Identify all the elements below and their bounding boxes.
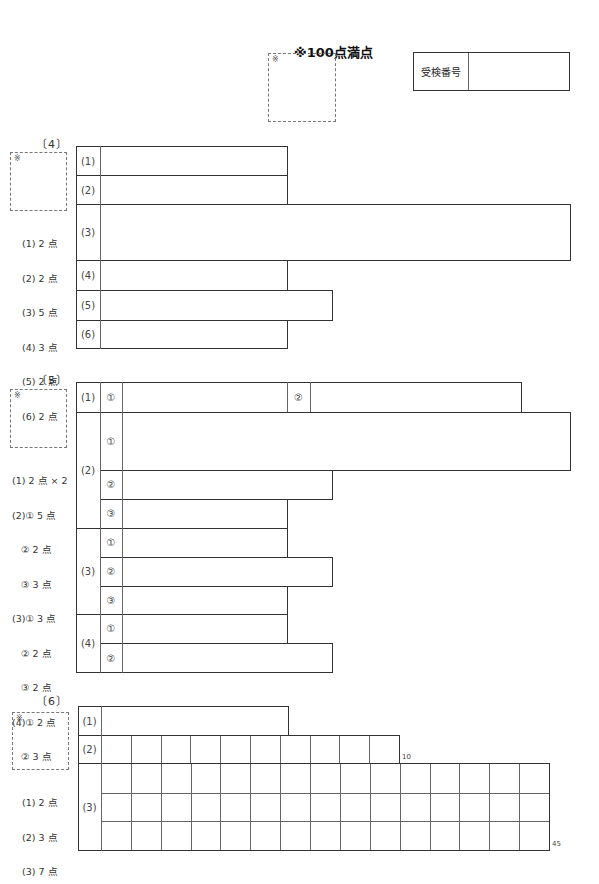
s5-q1-label: (1): [76, 382, 100, 413]
s6-q3-label: (3): [78, 763, 101, 851]
char-cell[interactable]: [191, 764, 221, 793]
char-cell[interactable]: [519, 764, 549, 793]
s5-q2-label: (2): [76, 412, 100, 528]
s5-q4-sub1-answer[interactable]: [123, 615, 286, 642]
s5-q3-sub2-answer[interactable]: [123, 558, 331, 585]
section-4-label: 〔4〕: [36, 135, 68, 151]
char-cell[interactable]: [191, 821, 221, 850]
points-line: (1) 2 点 × 2: [12, 475, 68, 487]
char-cell[interactable]: [101, 764, 131, 793]
char-cell[interactable]: [310, 764, 340, 793]
section-6-score-box[interactable]: ※: [12, 712, 69, 770]
char-cell[interactable]: [220, 764, 250, 793]
char-cell[interactable]: [430, 821, 460, 850]
s5-q4-sub2-answer[interactable]: [123, 644, 331, 672]
char-cell[interactable]: [400, 764, 430, 793]
char-cell[interactable]: [310, 821, 340, 850]
points-line: ③ 3 点: [12, 579, 68, 591]
char-cell[interactable]: [161, 764, 191, 793]
s4-q4-answer[interactable]: [101, 261, 287, 290]
char-cell[interactable]: [280, 736, 310, 763]
char-cell[interactable]: [131, 793, 161, 822]
s5-q2-sub1-answer[interactable]: [123, 413, 569, 469]
char-cell[interactable]: [489, 764, 519, 793]
s5-q2-sub3-answer[interactable]: [123, 500, 286, 527]
char-cell[interactable]: [370, 793, 400, 822]
char-cell[interactable]: [340, 764, 370, 793]
char-cell[interactable]: [220, 736, 250, 763]
char-cell[interactable]: [430, 764, 460, 793]
char-cell[interactable]: [369, 736, 399, 763]
s5-q3-sub2-label: ②: [100, 557, 122, 586]
section-6-points: (1) 2 点 (2) 3 点 (3) 7 点: [22, 774, 58, 884]
char-cell[interactable]: [310, 793, 340, 822]
char-cell[interactable]: [459, 793, 489, 822]
s5-q3-sub3-label: ③: [100, 586, 122, 614]
s6-q1-answer[interactable]: [102, 707, 288, 735]
char-cell[interactable]: [191, 793, 221, 822]
exam-number-input[interactable]: [469, 53, 569, 90]
s4-q6-answer[interactable]: [101, 321, 287, 348]
char-cell[interactable]: [340, 793, 370, 822]
char-cell[interactable]: [519, 793, 549, 822]
char-cell[interactable]: [131, 764, 161, 793]
s5-q3-sub1-answer[interactable]: [123, 529, 286, 556]
s4-q3-label: (3): [76, 204, 100, 261]
points-line: (2) 3 点: [22, 832, 58, 844]
char-cell[interactable]: [131, 821, 161, 850]
s5-q4-sub2-label: ②: [100, 643, 122, 673]
char-cell[interactable]: [101, 821, 131, 850]
s5-q4-sub1-label: ①: [100, 614, 122, 643]
exam-number-box: 受検番号: [413, 52, 570, 91]
char-cell[interactable]: [339, 736, 369, 763]
s4-q3-answer[interactable]: [101, 205, 569, 260]
points-line: (3) 7 点: [22, 866, 58, 878]
section-5-label: 〔5〕: [36, 371, 68, 387]
s5-q2-sub2-answer[interactable]: [123, 471, 331, 498]
s5-q1-sub2-answer[interactable]: [311, 383, 520, 412]
section-5-score-box[interactable]: ※: [10, 389, 67, 448]
char-cell[interactable]: [250, 821, 280, 850]
char-cell[interactable]: [400, 821, 430, 850]
char-cell[interactable]: [131, 736, 161, 763]
char-cell[interactable]: [161, 736, 191, 763]
s4-q5-answer[interactable]: [101, 291, 332, 320]
s5-q1-sub2-label: ②: [287, 382, 310, 413]
char-cell[interactable]: [430, 793, 460, 822]
s4-q2-label: (2): [76, 175, 100, 205]
char-cell[interactable]: [489, 821, 519, 850]
char-cell[interactable]: [220, 793, 250, 822]
char-cell[interactable]: [310, 736, 340, 763]
char-cell[interactable]: [220, 821, 250, 850]
s4-q1-answer[interactable]: [101, 147, 287, 175]
char-cell[interactable]: [250, 736, 280, 763]
char-cell[interactable]: [489, 793, 519, 822]
char-cell[interactable]: [519, 821, 549, 850]
char-cell[interactable]: [459, 821, 489, 850]
char-cell[interactable]: [250, 793, 280, 822]
s5-q1-sub1-answer[interactable]: [123, 383, 286, 412]
char-cell[interactable]: [161, 793, 191, 822]
char-cell[interactable]: [400, 793, 430, 822]
char-cell[interactable]: [370, 764, 400, 793]
char-cell[interactable]: [459, 764, 489, 793]
s5-q3-sub3-answer[interactable]: [123, 587, 286, 613]
char-cell[interactable]: [280, 764, 310, 793]
char-cell[interactable]: [280, 793, 310, 822]
char-cell[interactable]: [190, 736, 220, 763]
s4-q2-answer[interactable]: [101, 176, 287, 204]
char-cell[interactable]: [280, 821, 310, 850]
char-cell[interactable]: [161, 821, 191, 850]
asterisk-mark: ※: [14, 154, 21, 163]
char-cell[interactable]: [101, 736, 131, 763]
points-line: (3)① 3 点: [12, 613, 68, 625]
char-cell[interactable]: [250, 764, 280, 793]
char-cell[interactable]: [340, 821, 370, 850]
char-cell[interactable]: [101, 793, 131, 822]
points-line: (2)① 5 点: [12, 510, 68, 522]
char-cell[interactable]: [370, 821, 400, 850]
s5-q3-sub1-label: ①: [100, 528, 122, 557]
points-line: ② 2 点: [12, 648, 68, 660]
section-4-score-box[interactable]: ※: [10, 152, 67, 211]
total-score-box[interactable]: ※: [268, 53, 336, 122]
